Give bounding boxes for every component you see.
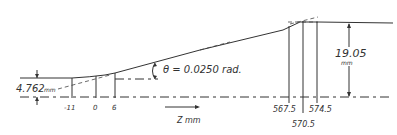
z-marker-label: 6 [112, 104, 117, 112]
arrow-right-icon [195, 105, 200, 109]
arrow-down-icon [347, 92, 351, 97]
inlet-radius-value: 4.762 [16, 83, 45, 94]
z-marker-label: 567.5 [273, 105, 296, 114]
z-marker-label: -11 [64, 104, 75, 112]
theta-label: θ = 0.0250 rad. [163, 64, 242, 75]
arrow-up-icon [35, 97, 39, 101]
taper-profile-diagram: θ = 0.0250 rad. 4.762 mm -11 0 6 567.5 5… [0, 0, 397, 135]
z-marker-label: 0 [93, 104, 98, 112]
outlet-height-unit: mm [341, 59, 353, 66]
arrow-down-icon [35, 74, 39, 78]
z-marker-label: 574.5 [309, 105, 332, 114]
z-marker-label: 570.5 [292, 120, 315, 129]
inlet-radius-unit: mm [44, 86, 56, 93]
arrow-up-icon [347, 23, 351, 28]
z-axis-label: Z mm [176, 116, 201, 125]
taper-extension-top [290, 17, 318, 24]
